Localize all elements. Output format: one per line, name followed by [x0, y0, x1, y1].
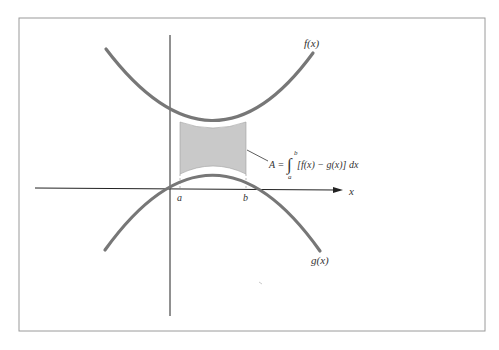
shaded-area-region — [180, 122, 246, 174]
figure-frame — [19, 18, 485, 331]
f-label: f(x) — [304, 37, 320, 50]
x-axis-label: x — [348, 185, 354, 197]
upper-limit: b — [294, 149, 298, 157]
a-label: a — [177, 192, 182, 203]
area-between-curves-diagram: f(x) g(x) x a b A = ∫ b a [f(x) − g(x)] … — [0, 0, 499, 350]
g-label: g(x) — [311, 254, 329, 267]
formula-lhs: A = — [268, 159, 284, 170]
lower-limit: a — [288, 173, 292, 181]
b-label: b — [243, 192, 248, 203]
formula-integrand: [f(x) − g(x)] dx — [297, 159, 359, 171]
